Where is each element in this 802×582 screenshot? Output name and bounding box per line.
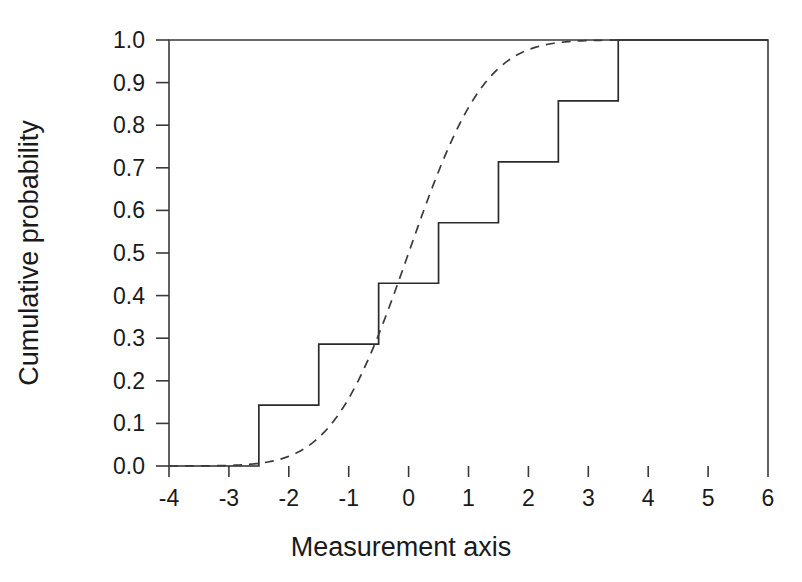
chart-page: -4-3-2-10123456 0.00.10.20.30.40.50.60.7… [0,0,802,582]
x-tick-label-3: -1 [338,485,358,511]
x-tick-label-9: 5 [702,485,715,511]
y-tick-label-1: 0.1 [113,410,145,436]
x-tick-label-7: 3 [582,485,595,511]
x-tick-label-1: -3 [219,485,239,511]
y-tick-label-2: 0.2 [113,368,145,394]
y-tick-label-6: 0.6 [113,197,145,223]
x-tick-label-6: 2 [522,485,535,511]
y-tick-label-4: 0.4 [113,283,145,309]
x-tick-label-4: 0 [402,485,415,511]
y-tick-label-7: 0.7 [113,155,145,181]
x-tick-label-5: 1 [462,485,475,511]
x-tick-label-8: 4 [642,485,655,511]
y-axis-title: Cumulative probability [14,120,44,386]
normal-cdf-dashed-series [169,40,768,466]
x-tick-label-10: 6 [762,485,775,511]
cumulative-probability-chart: -4-3-2-10123456 0.00.10.20.30.40.50.60.7… [0,0,802,582]
empirical-step-series [169,40,768,466]
y-tick-label-0: 0.0 [113,453,145,479]
y-tick-label-9: 0.9 [113,70,145,96]
plot-box-border [169,40,768,466]
y-tick-label-3: 0.3 [113,325,145,351]
x-tick-label-0: -4 [159,485,180,511]
plot-frame [169,40,768,466]
x-axis-title: Measurement axis [291,532,512,562]
y-axis-ticks [156,40,169,466]
x-tick-label-2: -2 [279,485,299,511]
y-axis-tick-labels: 0.00.10.20.30.40.50.60.70.80.91.0 [113,27,145,479]
x-axis-ticks [169,466,768,477]
y-tick-label-8: 0.8 [113,112,145,138]
x-axis-tick-labels: -4-3-2-10123456 [159,485,775,511]
y-tick-label-5: 0.5 [113,240,145,266]
y-tick-label-10: 1.0 [113,27,145,53]
